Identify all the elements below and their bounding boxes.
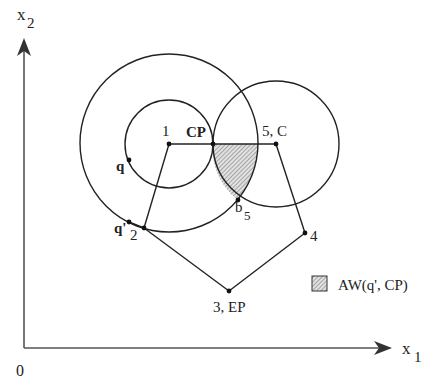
legend: AW(q', CP) xyxy=(312,276,408,294)
y-axis-subscript: 2 xyxy=(27,15,35,31)
node-1-dot xyxy=(167,142,172,147)
edge-2-3 xyxy=(144,228,229,291)
edge-4-5 xyxy=(276,144,305,233)
legend-label: AW(q', CP) xyxy=(338,277,408,294)
x-axis-label: x xyxy=(402,339,411,358)
node-5-dot xyxy=(274,142,279,147)
q-label: q xyxy=(116,158,125,174)
qprime-label: q' xyxy=(114,220,127,236)
diagram-svg: x 2 x 1 0 1 CP 5, C 2 3, xyxy=(0,0,438,385)
node-3-label: 3, EP xyxy=(213,299,246,315)
q-dot xyxy=(127,158,132,163)
node-3-dot xyxy=(227,289,232,294)
circles xyxy=(80,54,339,232)
node-1-label: 1 xyxy=(162,123,170,139)
axes: x 2 x 1 0 xyxy=(16,5,422,379)
edge-1-2 xyxy=(144,144,169,228)
diagram-canvas: x 2 x 1 0 1 CP 5, C 2 3, xyxy=(0,0,438,385)
legend-swatch xyxy=(312,276,327,291)
origin-label: 0 xyxy=(16,362,24,379)
node-2-dot xyxy=(142,226,147,231)
qprime-dot xyxy=(127,220,132,225)
cp-label: CP xyxy=(186,124,206,140)
node-4-label: 4 xyxy=(310,228,318,244)
node-5-label: 5, C xyxy=(262,123,287,139)
cp-dot xyxy=(211,142,216,147)
node-2-label: 2 xyxy=(130,227,138,243)
b5-subscript: 5 xyxy=(244,208,251,223)
b5-label: b xyxy=(235,199,243,215)
x-axis-subscript: 1 xyxy=(414,349,422,365)
edge-3-4 xyxy=(229,233,305,291)
node-4-dot xyxy=(303,231,308,236)
y-axis-label: x xyxy=(17,5,26,24)
